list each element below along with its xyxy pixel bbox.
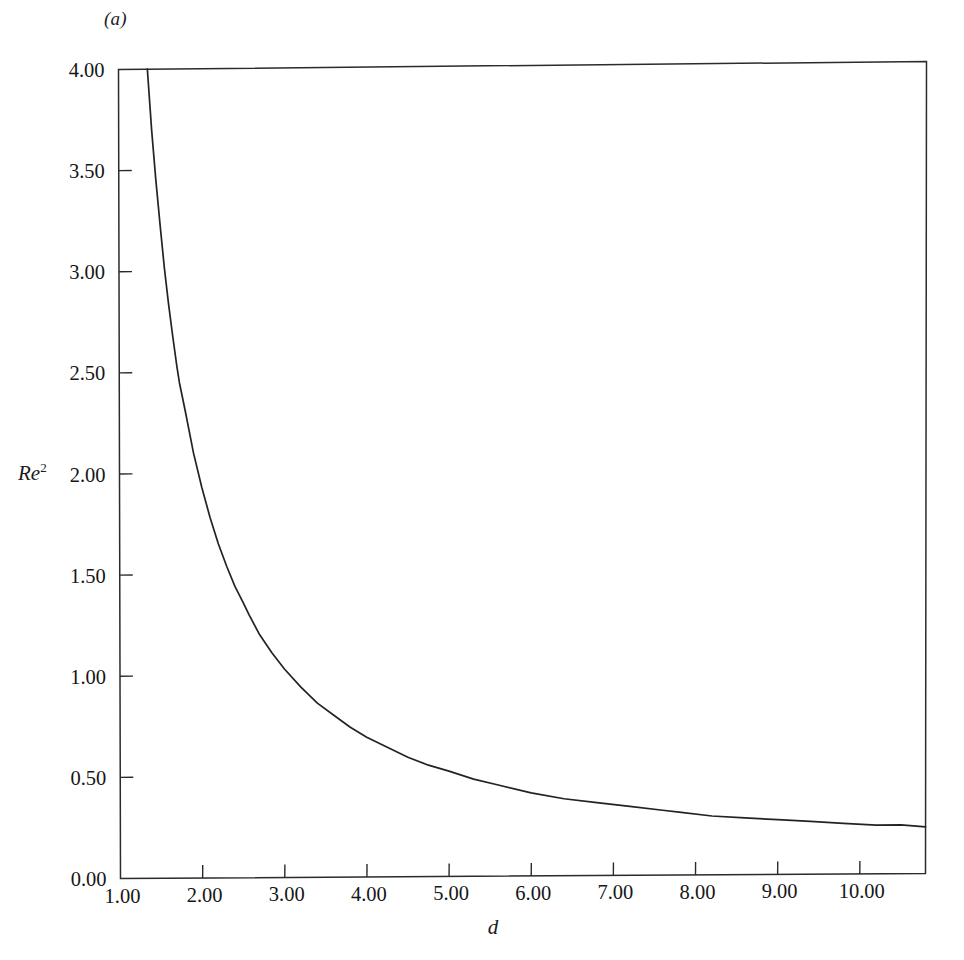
data-curve-group xyxy=(147,69,925,827)
data-curve xyxy=(147,69,925,827)
y-tick-label: 0.00 xyxy=(71,868,107,890)
x-tick-label: 7.00 xyxy=(597,881,633,903)
x-tick-label: 4.00 xyxy=(351,883,387,905)
x-tick-label: 1.00 xyxy=(105,885,141,907)
x-tick-label: 9.00 xyxy=(762,880,798,902)
y-tick-label: 1.00 xyxy=(70,666,106,688)
y-tick-label: 1.50 xyxy=(70,565,106,587)
axes-group xyxy=(119,62,927,879)
y-tick-label: 2.50 xyxy=(69,362,105,384)
axis-frame xyxy=(119,62,927,879)
y-tick-labels: 0.000.501.001.502.002.503.003.504.00 xyxy=(69,59,107,890)
x-tick-label: 3.00 xyxy=(269,883,305,905)
y-tick-label: 0.50 xyxy=(70,767,106,789)
x-tick-label: 6.00 xyxy=(515,882,551,904)
x-tick-label: 2.00 xyxy=(187,884,223,906)
y-tick-label: 3.00 xyxy=(69,261,105,283)
x-tick-label: 10.00 xyxy=(839,880,885,902)
x-tick-label: 8.00 xyxy=(680,881,716,903)
plot-area: 0.000.501.001.502.002.503.003.504.00 1.0… xyxy=(0,0,964,960)
x-tick-label: 5.00 xyxy=(433,882,469,904)
y-tick-label: 2.00 xyxy=(70,464,106,486)
ticks-group xyxy=(119,171,860,878)
y-tick-label: 3.50 xyxy=(69,160,105,182)
figure-container: (a) Re2 d 0.000.501.001.502.002.503.003.… xyxy=(0,0,964,960)
x-tick-labels: 1.002.003.004.005.006.007.008.009.0010.0… xyxy=(105,880,885,907)
y-tick-label: 4.00 xyxy=(69,59,105,81)
